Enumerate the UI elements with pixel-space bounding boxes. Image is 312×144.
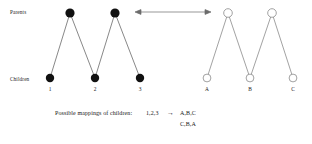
children-row-label: Children [10,76,29,82]
caption-mapping-second: C,B,A [180,121,196,127]
child-label-2: 2 [88,86,102,92]
child-node-3 [136,74,144,82]
edge-P2-B [250,13,272,78]
edge-P2-C [272,13,293,78]
child-node-B [246,74,254,82]
child-label-B: B [243,86,257,92]
caption-mapping-first: A,B,C [180,110,196,116]
child-label-3: 3 [133,86,147,92]
caption-lead-text: Possible mappings of children: [55,110,132,116]
parent-node-P2 [268,9,277,18]
caption-source-tuple: 1,2,3 [146,110,159,116]
parent-node-p1 [65,8,74,17]
pedigree-mapping-figure: Parents Children 1 2 3 A B C Possible ma… [0,0,312,144]
child-node-A [203,74,211,82]
child-node-2 [91,74,99,82]
child-label-C: C [286,86,300,92]
right-graph-nodes [203,9,297,82]
edge-P1-A [207,13,228,78]
parent-node-p2 [110,8,119,17]
left-graph-nodes [46,8,144,82]
child-node-1 [46,74,54,82]
edge-p1-c1 [50,13,70,78]
graph-canvas [0,0,312,144]
edge-p2-c3 [115,13,140,78]
child-node-C [289,74,297,82]
child-label-A: A [200,86,214,92]
parent-node-P1 [224,9,233,18]
edge-P1-B [228,13,250,78]
left-graph-edges [50,13,140,78]
child-label-1: 1 [43,86,57,92]
edge-p1-c2 [70,13,95,78]
edge-p2-c2 [95,13,115,78]
parents-row-label: Parents [10,9,26,15]
right-graph-edges [207,13,293,78]
double-headed-arrow-icon [135,10,211,15]
caption-arrow-icon: → [167,109,174,117]
